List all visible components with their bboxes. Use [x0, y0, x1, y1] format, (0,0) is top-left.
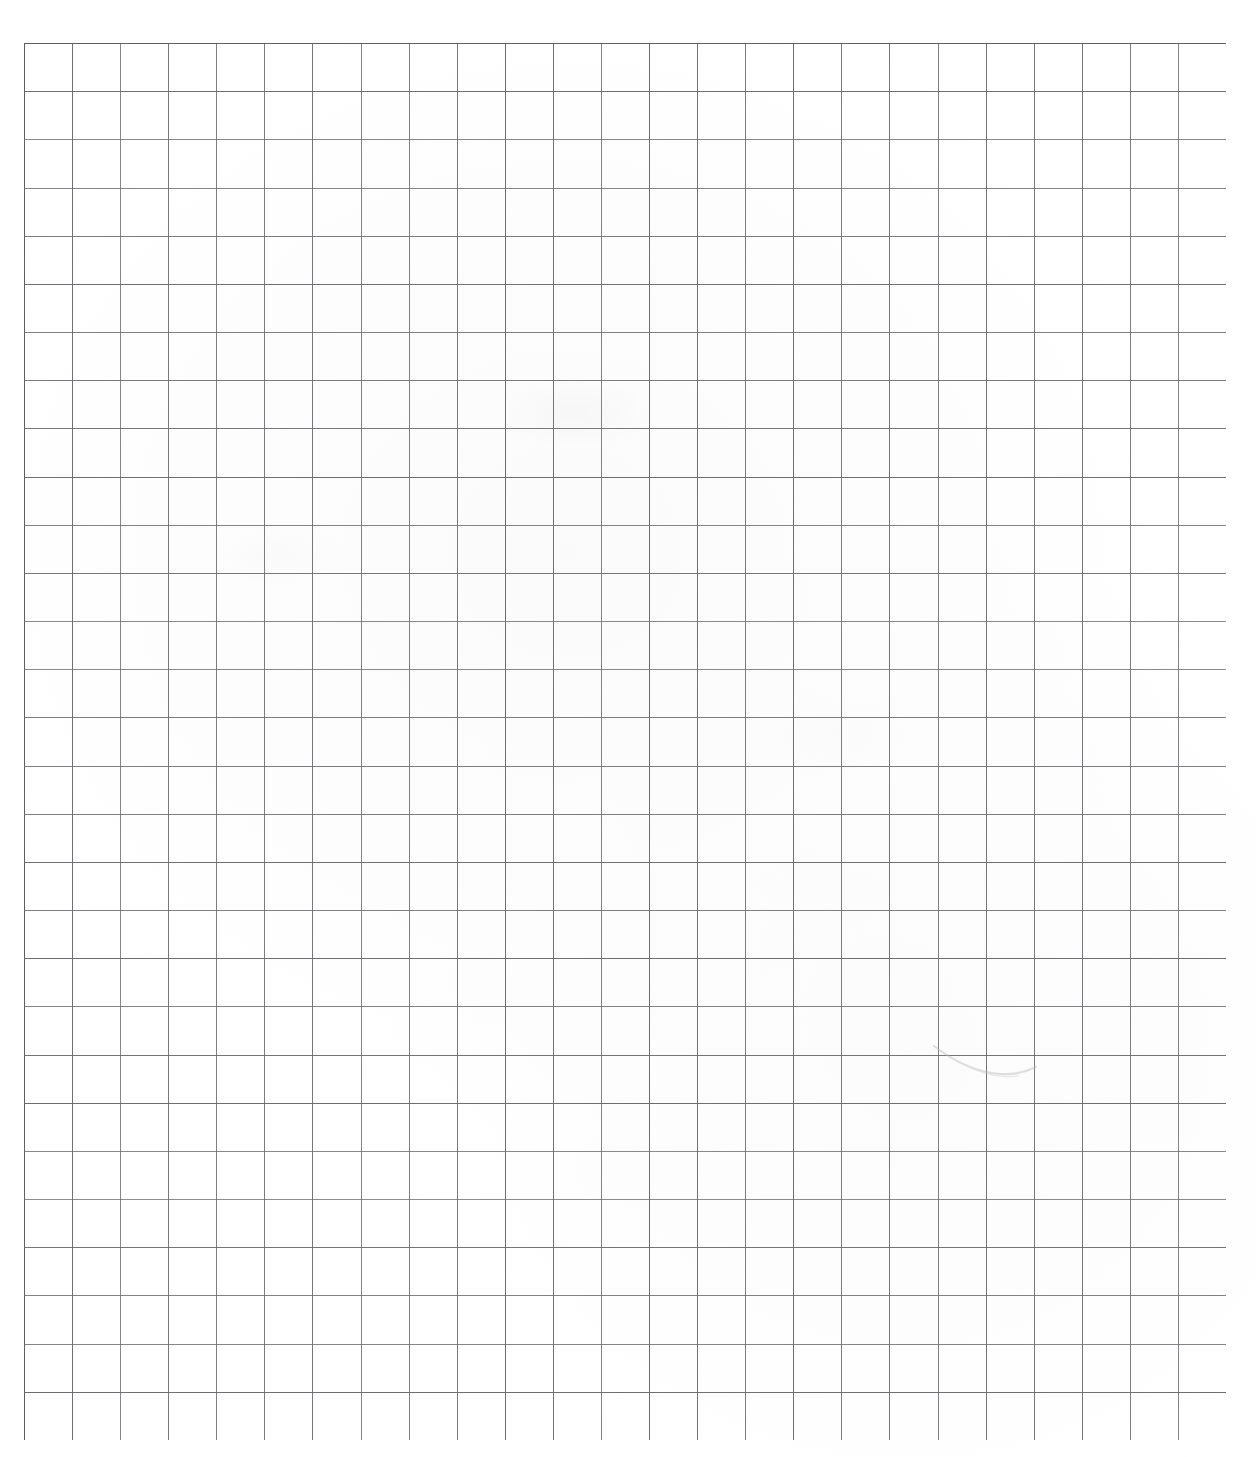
grid-paper-area [24, 43, 1226, 1440]
grid-lines [24, 43, 1226, 1440]
scanned-page [0, 0, 1256, 1457]
